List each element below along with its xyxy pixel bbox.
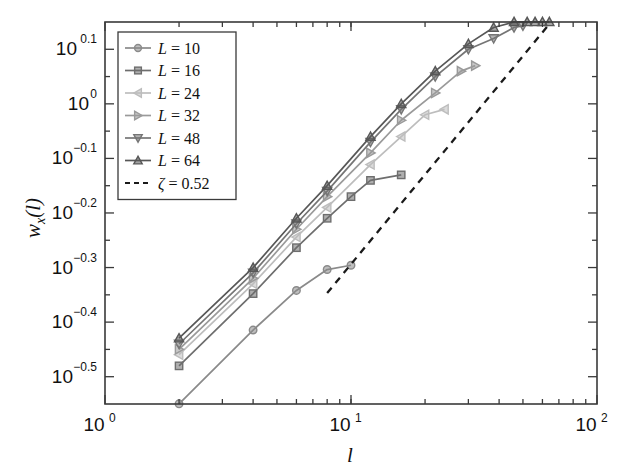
svg-text:10: 10 <box>329 414 350 435</box>
svg-text:−0.1: −0.1 <box>73 141 97 155</box>
square-marker <box>135 67 142 74</box>
figure-container: 1001011020.110010−0.110−0.210−0.310−0.41… <box>0 0 634 474</box>
square-marker <box>175 362 182 369</box>
legend-label: L = 64 <box>157 152 200 169</box>
square-marker <box>398 171 405 178</box>
circle-marker <box>135 45 142 52</box>
svg-text:−0.3: −0.3 <box>73 251 97 265</box>
svg-text:10: 10 <box>52 366 73 387</box>
svg-text:0: 0 <box>90 87 97 101</box>
y-tick-label: −0.110 <box>52 141 97 168</box>
y-label-main: w <box>21 224 45 238</box>
svg-text:wx(l): wx(l) <box>21 198 48 238</box>
x-axis-label: l <box>347 443 353 467</box>
circle-marker <box>293 287 301 295</box>
legend-label: ζ = 0.52 <box>158 175 210 193</box>
y-axis-label: wx(l) <box>21 198 48 238</box>
svg-text:1: 1 <box>355 411 362 425</box>
svg-text:−0.2: −0.2 <box>73 196 97 210</box>
legend-label: L = 24 <box>157 85 200 102</box>
square-marker <box>367 177 374 184</box>
legend: L = 10L = 16L = 24L = 32L = 48L = 64ζ = … <box>118 32 236 200</box>
square-marker <box>347 193 354 200</box>
x-tick-label: 102 <box>575 411 608 435</box>
square-marker <box>249 290 256 297</box>
svg-text:−0.4: −0.4 <box>73 305 97 319</box>
x-tick-label: 101 <box>329 411 362 435</box>
svg-text:10: 10 <box>56 38 77 59</box>
circle-marker <box>323 266 331 274</box>
y-tick-label: 010 <box>68 87 97 114</box>
svg-text:10: 10 <box>68 93 89 114</box>
square-marker <box>293 244 300 251</box>
y-tick-label: −0.210 <box>52 196 97 223</box>
square-marker <box>323 215 330 222</box>
y-tick-label: −0.310 <box>52 251 97 278</box>
x-tick-label: 100 <box>83 411 116 435</box>
legend-label: L = 32 <box>157 107 200 124</box>
y-label-argument: (l) <box>21 198 45 218</box>
svg-text:10: 10 <box>52 257 73 278</box>
svg-text:10: 10 <box>52 311 73 332</box>
svg-text:10: 10 <box>575 414 596 435</box>
y-tick-label: −0.410 <box>52 305 97 332</box>
svg-text:0.1: 0.1 <box>80 32 97 46</box>
legend-label: L = 48 <box>157 130 200 147</box>
svg-text:10: 10 <box>52 202 73 223</box>
svg-text:0: 0 <box>109 411 116 425</box>
svg-text:2: 2 <box>601 411 608 425</box>
y-tick-label: 0.110 <box>56 32 97 59</box>
loglog-plot: 1001011020.110010−0.110−0.210−0.310−0.41… <box>0 0 634 474</box>
y-tick-label: −0.510 <box>52 360 97 387</box>
svg-text:10: 10 <box>52 147 73 168</box>
circle-marker <box>249 326 257 334</box>
svg-text:−0.5: −0.5 <box>73 360 97 374</box>
svg-text:10: 10 <box>83 414 104 435</box>
legend-label: L = 16 <box>157 62 200 79</box>
legend-label: L = 10 <box>157 40 200 57</box>
